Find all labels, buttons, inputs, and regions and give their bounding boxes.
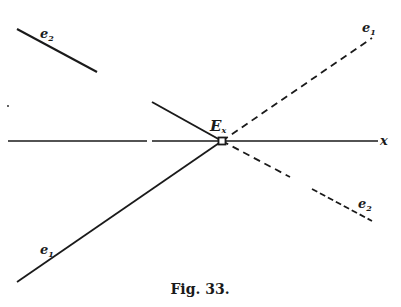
label-e2-upper: e2 [40,26,54,43]
label-point-Ex: Ex [209,117,226,135]
label-e1-upper: e1 [362,20,376,37]
label-e2-lower: e2 [358,196,372,213]
diagram-canvas: x e2 e1 e1 e2 Ex Fig. 33. [0,0,401,307]
line-e2-upper-segment [17,29,97,72]
x-axis-label: x [379,133,388,148]
line-e2-lower-dashed-a [222,141,290,177]
intersection-point-marker [219,138,226,145]
line-e1-lower [17,141,222,282]
speck [7,105,9,107]
figure-caption: Fig. 33. [170,281,229,297]
label-e1-lower: e1 [40,242,54,259]
line-e1-upper-dashed [222,38,372,141]
